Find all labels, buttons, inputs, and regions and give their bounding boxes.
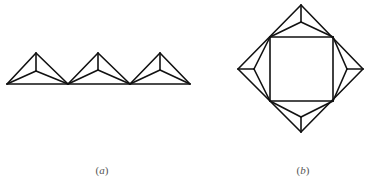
inner-segment	[301, 101, 333, 117]
label-close-paren: )	[105, 164, 109, 176]
triangle-edge	[36, 53, 68, 84]
inner-segment	[68, 70, 98, 84]
inner-segment	[98, 70, 130, 84]
triangle-edge	[160, 53, 190, 84]
panel-a-label: (a)	[96, 164, 109, 176]
inner-segment	[254, 37, 270, 69]
panel-b-diamond-square	[238, 5, 363, 132]
triangle-edge	[130, 53, 160, 84]
inner-segment	[270, 22, 301, 37]
inner-segment	[36, 71, 68, 84]
inner-segment	[254, 69, 270, 101]
label-close-paren: )	[306, 164, 310, 176]
inner-segment	[333, 37, 347, 69]
inner-segment	[333, 69, 347, 101]
triangle-edge	[7, 53, 36, 84]
inner-segment	[160, 70, 190, 84]
inner-segment	[301, 22, 333, 37]
panel-b-label: (b)	[297, 164, 310, 176]
inner-segment	[7, 71, 36, 84]
inner-segment	[270, 101, 301, 117]
triangle-edge	[98, 53, 130, 84]
triangle-edge	[68, 53, 98, 84]
diagram-canvas	[0, 0, 368, 180]
inner-segment	[130, 70, 160, 84]
panel-a-triangles	[7, 53, 190, 84]
